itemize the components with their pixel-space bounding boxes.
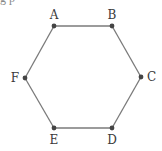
edge-EF (25, 78, 54, 128)
edges (25, 26, 141, 128)
vertex-D (110, 126, 115, 131)
vertex-label-F: F (11, 71, 19, 85)
vertex-label-E: E (50, 133, 59, 147)
vertex-E (52, 126, 57, 131)
hexagon-graph: ABCDEF (0, 0, 162, 151)
vertex-label-B: B (108, 8, 117, 22)
vertex-A (52, 24, 57, 29)
vertex-label-D: D (107, 133, 117, 147)
vertex-B (110, 24, 115, 29)
vertex-F (23, 76, 28, 81)
vertex-label-C: C (147, 70, 156, 84)
edge-CD (112, 77, 141, 128)
edge-FA (25, 26, 54, 78)
edge-BC (112, 26, 141, 77)
vertex-C (139, 75, 144, 80)
vertex-label-A: A (49, 8, 59, 22)
vertex-labels: ABCDEF (11, 8, 157, 147)
vertices (23, 24, 144, 131)
